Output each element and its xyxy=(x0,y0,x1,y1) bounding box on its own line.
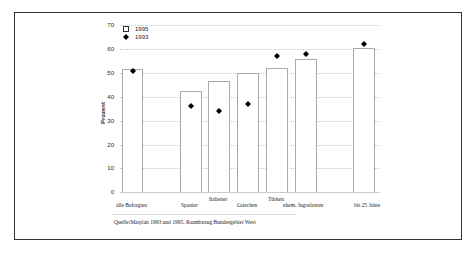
legend: 1995 1993 xyxy=(123,25,148,41)
x-label-spanier: Spanier xyxy=(181,202,198,208)
source-note: Quelle:Marplan 1993 und 1995. Raumbezug … xyxy=(114,219,256,225)
y-tick-0: 0 xyxy=(98,189,114,195)
bar-1995-italiener xyxy=(208,81,230,192)
y-tick-50: 50 xyxy=(98,70,114,76)
x-label-griechen: Griechen xyxy=(237,202,257,208)
marker-1993-italiener xyxy=(216,108,222,114)
bar-1995-tuerken xyxy=(266,68,288,192)
x-axis-line xyxy=(120,192,380,193)
x-label-jugoslawen: ehem. Jugoslawen xyxy=(283,202,323,208)
marker-1993-jugoslawen xyxy=(303,51,309,57)
legend-bar-swatch xyxy=(123,26,129,32)
x-label-bis-25: bis 25 Jahre xyxy=(354,202,380,208)
bar-1995-griechen xyxy=(237,73,259,192)
marker-1993-spanier xyxy=(188,103,194,109)
divider xyxy=(112,214,297,215)
legend-diamond-icon xyxy=(123,34,129,40)
marker-1993-bis-25 xyxy=(361,41,367,47)
y-axis-label: Prozent xyxy=(100,102,106,124)
x-label-italiener: Italiener xyxy=(209,196,227,202)
legend-item-1995: 1995 xyxy=(123,25,148,33)
y-tick-70: 70 xyxy=(98,22,114,28)
legend-label-1995: 1995 xyxy=(135,26,148,32)
x-label-alle-befragten: alle Befragten xyxy=(116,202,147,208)
gridline xyxy=(120,25,380,26)
y-tick-10: 10 xyxy=(98,165,114,171)
gridline xyxy=(120,49,380,50)
y-tick-60: 60 xyxy=(98,46,114,52)
marker-1993-tuerken xyxy=(274,53,280,59)
bar-1995-alle-befragten xyxy=(122,69,143,192)
bar-1995-jugoslawen xyxy=(295,59,317,192)
y-tick-40: 40 xyxy=(98,94,114,100)
marker-1993-griechen xyxy=(245,101,251,107)
x-label-tuerken: Türken xyxy=(268,196,284,202)
legend-item-1993: 1993 xyxy=(123,33,148,41)
legend-label-1993: 1993 xyxy=(135,34,148,40)
y-tick-20: 20 xyxy=(98,142,114,148)
marker-1993-alle-befragten xyxy=(130,68,136,74)
bar-1995-bis-25 xyxy=(353,48,375,192)
